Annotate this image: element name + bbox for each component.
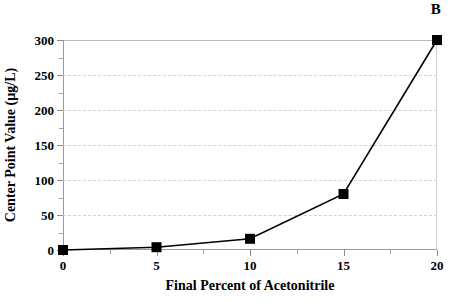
x-tick-major [344, 250, 345, 256]
x-tick-label: 15 [337, 259, 350, 272]
x-tick-label: 20 [431, 259, 444, 272]
y-tick-label: 250 [35, 69, 55, 82]
data-point-marker [152, 242, 162, 252]
x-tick-minor [390, 250, 391, 254]
x-tick-minor [203, 250, 204, 254]
y-tick-label: 50 [41, 209, 54, 222]
chart-figure: B Center Point Value (µg/L) 050100150200… [0, 0, 456, 302]
y-tick-label: 300 [35, 34, 55, 47]
x-tick-major [250, 250, 251, 256]
x-tick-minor [297, 250, 298, 254]
x-tick-minor [110, 250, 111, 254]
x-tick-major [437, 250, 438, 256]
panel-label: B [431, 2, 441, 17]
y-axis-title-text: Center Point Value (µg/L) [4, 68, 18, 222]
y-tick-label: 150 [35, 139, 55, 152]
x-axis-title: Final Percent of Acetonitrile [63, 279, 437, 293]
series-markers [58, 35, 442, 255]
y-tick-label: 0 [48, 244, 55, 257]
data-series [63, 40, 437, 250]
data-point-marker [245, 234, 255, 244]
x-tick-label: 0 [60, 259, 67, 272]
data-point-marker [339, 189, 349, 199]
series-line [63, 40, 437, 250]
x-tick-label: 5 [153, 259, 160, 272]
y-tick-label: 200 [35, 104, 55, 117]
x-tick-label: 10 [244, 259, 257, 272]
y-tick-label: 100 [35, 174, 55, 187]
data-point-marker [58, 245, 68, 255]
data-point-marker [432, 35, 442, 45]
y-axis-title: Center Point Value (µg/L) [0, 40, 22, 250]
plot-area: 050100150200250300 05101520 [63, 40, 437, 250]
